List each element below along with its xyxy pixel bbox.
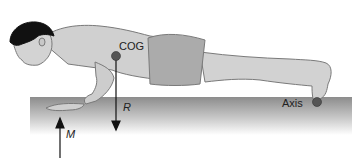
resistance-label: R [123, 102, 131, 113]
legs [200, 52, 331, 99]
axis-marker [313, 98, 322, 107]
motive-force-label: M [66, 129, 75, 140]
diagram-canvas [0, 0, 358, 161]
floor [30, 97, 352, 135]
cog-label: COG [119, 41, 144, 52]
ear [39, 38, 45, 46]
shorts [148, 34, 205, 85]
axis-label: Axis [282, 98, 303, 109]
motive-force-arrow [56, 118, 64, 158]
cog-marker [112, 52, 121, 61]
pushup-lever-diagram: COG R M Axis [0, 0, 358, 161]
